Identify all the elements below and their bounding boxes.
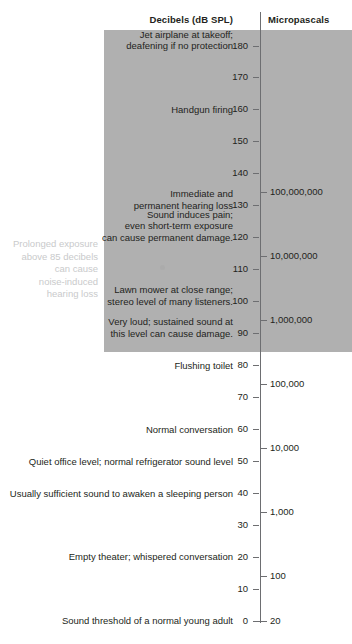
side-note-line: noise-induced	[0, 276, 98, 289]
annotation-line: Empty theater; whispered conversation	[0, 551, 233, 563]
micropascal-tick-100000	[261, 384, 267, 385]
decibel-tick-100	[253, 301, 259, 302]
decibel-tick-150	[253, 141, 259, 142]
annotation-line: Usually sufficient sound to awaken a sle…	[0, 488, 233, 500]
annotation-180db: Jet airplane at takeoff;deafening if no …	[0, 29, 233, 52]
decibel-label-110: 110	[210, 264, 248, 274]
decibel-tick-140	[253, 173, 259, 174]
annotation-line: Flushing toilet	[0, 360, 233, 372]
vertical-axis-line	[260, 12, 261, 623]
decibel-tick-70	[253, 397, 259, 398]
micropascal-label-100: 100	[270, 571, 286, 581]
decibel-tick-170	[253, 77, 259, 78]
decibel-label-140: 140	[210, 168, 248, 178]
side-note-prolonged-exposure: Prolonged exposureabove 85 decibelscan c…	[0, 238, 98, 301]
decibel-tick-160	[253, 109, 259, 110]
micropascal-label-1000: 1,000	[270, 507, 294, 517]
annotation-line: Quiet office level; normal refrigerator …	[0, 456, 233, 468]
decibel-tick-30	[253, 525, 259, 526]
micropascal-label-100000: 100,000	[270, 379, 304, 389]
annotation-line: Handgun firing	[0, 104, 233, 116]
decibel-tick-60	[253, 429, 259, 430]
decibel-label-10: 10	[210, 584, 248, 594]
annotation-160db: Handgun firing	[0, 104, 233, 116]
micropascal-label-100000000: 100,000,000	[270, 187, 323, 197]
side-note-line: can cause	[0, 263, 98, 276]
annotation-line: Immediate and	[0, 188, 233, 200]
micropascal-label-10000000: 10,000,000	[270, 251, 318, 261]
decibel-label-30: 30	[210, 520, 248, 530]
decibel-tick-110	[253, 269, 259, 270]
side-note-line: Prolonged exposure	[0, 238, 98, 251]
column-header-decibels: Decibels (dB SPL)	[0, 14, 233, 25]
annotation-line: deafening if no protection	[0, 40, 233, 52]
decibel-label-150: 150	[210, 136, 248, 146]
side-note-line: above 85 decibels	[0, 251, 98, 264]
annotation-line: even short-term exposure	[0, 220, 233, 232]
decibel-scale-chart: Decibels (dB SPL) Micropascals 180170160…	[0, 0, 352, 644]
annotation-50db: Quiet office level; normal refrigerator …	[0, 456, 233, 468]
decibel-tick-180	[253, 46, 259, 47]
column-header-decibels-label: Decibels (dB SPL)	[149, 14, 233, 25]
decibel-label-170: 170	[210, 72, 248, 82]
annotation-line: this level can cause damage.	[0, 328, 233, 340]
micropascal-tick-10000	[261, 448, 267, 449]
annotation-20db: Empty theater; whispered conversation	[0, 551, 233, 563]
annotation-line: Normal conversation	[0, 424, 233, 436]
decibel-tick-50	[253, 461, 259, 462]
annotation-line: Sound threshold of a normal young adult	[0, 615, 233, 627]
decibel-label-70: 70	[210, 392, 248, 402]
annotation-90db: Very loud; sustained sound atthis level …	[0, 316, 233, 339]
annotation-40db: Usually sufficient sound to awaken a sle…	[0, 488, 233, 500]
annotation-0db: Sound threshold of a normal young adult	[0, 615, 233, 627]
annotation-line: Very loud; sustained sound at	[0, 316, 233, 328]
micropascal-tick-10000000	[261, 256, 267, 257]
annotation-80db: Flushing toilet	[0, 360, 233, 372]
micropascal-tick-100000000	[261, 192, 267, 193]
decibel-tick-80	[253, 365, 259, 366]
annotation-60db: Normal conversation	[0, 424, 233, 436]
decibel-tick-130	[253, 205, 259, 206]
micropascal-tick-1000000	[261, 320, 267, 321]
scan-artifact-dot	[160, 265, 165, 270]
micropascal-label-20: 20	[270, 616, 281, 626]
micropascal-tick-1000	[261, 512, 267, 513]
micropascal-tick-20	[253, 621, 267, 622]
micropascal-tick-100	[261, 576, 267, 577]
decibel-tick-20	[253, 557, 259, 558]
decibel-tick-40	[253, 493, 259, 494]
decibel-tick-120	[253, 237, 259, 238]
column-header-micropascals: Micropascals	[268, 14, 329, 25]
micropascal-label-1000000: 1,000,000	[270, 315, 312, 325]
micropascal-label-10000: 10,000	[270, 443, 299, 453]
decibel-tick-10	[253, 589, 259, 590]
annotation-line: Jet airplane at takeoff;	[0, 29, 233, 41]
annotation-line: Sound induces pain;	[0, 209, 233, 221]
side-note-line: hearing loss	[0, 288, 98, 301]
decibel-tick-90	[253, 333, 259, 334]
